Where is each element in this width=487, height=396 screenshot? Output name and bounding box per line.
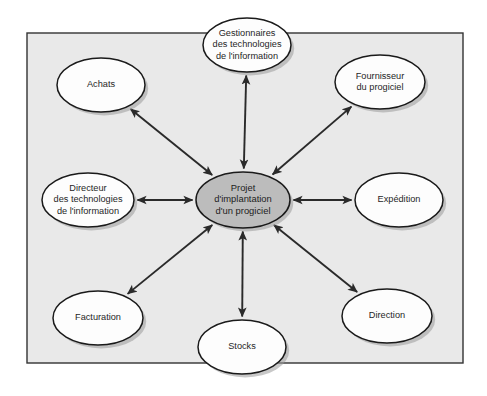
node-label-line: des technologies bbox=[213, 39, 282, 49]
node-label-line: Stocks bbox=[228, 341, 256, 351]
nodes-layer: Gestionnairesdes technologiesde l'inform… bbox=[42, 18, 446, 377]
node-label-line: Expédition bbox=[378, 194, 421, 204]
node-label-line: Direction bbox=[369, 310, 405, 320]
node-label-line: Directeur bbox=[69, 183, 106, 193]
node-label-line: Gestionnaires bbox=[219, 28, 276, 38]
node-label-line: Fournisseur bbox=[356, 71, 405, 81]
stakeholder-diagram: Gestionnairesdes technologiesde l'inform… bbox=[0, 0, 487, 396]
node-label-line: d'un progiciel bbox=[216, 205, 271, 216]
node-label-line: Achats bbox=[87, 79, 115, 89]
node-label-line: des technologies bbox=[54, 194, 123, 204]
node-label-line: d'implantation bbox=[214, 193, 272, 204]
node-label-line: de l'information bbox=[216, 51, 278, 61]
node-label-line: du progiciel bbox=[357, 82, 404, 92]
link-center-stocks[interactable] bbox=[242, 232, 243, 317]
node-label-line: de l'information bbox=[57, 206, 119, 216]
node-label-line: Projet bbox=[231, 182, 256, 193]
node-label-line: Facturation bbox=[75, 312, 121, 322]
diagram-canvas: Gestionnairesdes technologiesde l'inform… bbox=[0, 0, 487, 396]
